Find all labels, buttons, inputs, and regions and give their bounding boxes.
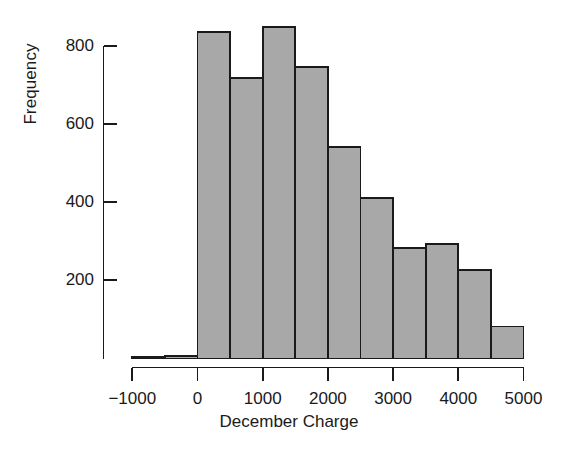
histogram-figure: Frequency December Charge 200400600800 −… (0, 0, 578, 457)
x-axis-tick-labels: −1000010002000300040005000 (0, 0, 578, 457)
x-axis-tick-label: 5000 (479, 390, 569, 407)
